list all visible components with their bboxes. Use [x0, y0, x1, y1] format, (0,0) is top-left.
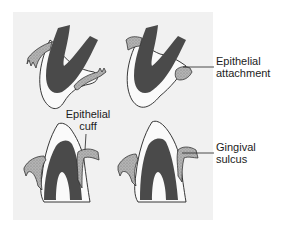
label-gingival-sulcus: Gingival sulcus [216, 141, 256, 165]
tooth-eruption-diagram [0, 0, 293, 228]
label-line-1: Gingival [216, 141, 256, 153]
label-line-2: cuff [64, 120, 112, 132]
label-epithelial-cuff: Epithelial cuff [64, 108, 112, 132]
label-line-1: Epithelial [64, 108, 112, 120]
label-line-1: Epithelial [216, 55, 270, 67]
label-line-2: sulcus [216, 153, 256, 165]
label-epithelial-attachment: Epithelial attachment [216, 55, 270, 79]
label-line-2: attachment [216, 67, 270, 79]
